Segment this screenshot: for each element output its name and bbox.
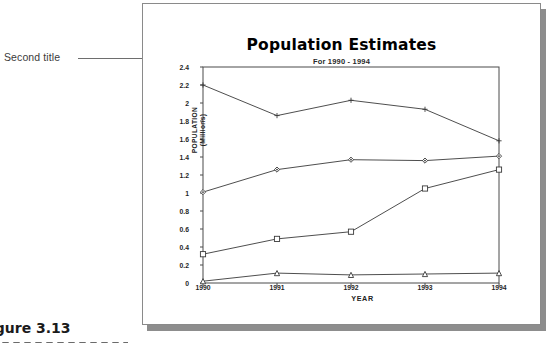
figure-caption: igure 3.13 <box>0 320 71 336</box>
x-tick-label: 1992 <box>334 284 368 291</box>
y-tick-label: 1.8 <box>167 118 189 125</box>
y-tick-label: 1.2 <box>167 172 189 179</box>
y-axis-tick-labels: 00.20.40.60.811.21.41.61.822.22.4 <box>165 4 189 326</box>
y-tick-label: 0.2 <box>167 262 189 269</box>
y-tick-label: 2.4 <box>167 64 189 71</box>
y-tick-label: 0.4 <box>167 244 189 251</box>
x-axis-title: YEAR <box>193 294 532 303</box>
x-tick-label: 1993 <box>408 284 442 291</box>
y-tick-label: 1.6 <box>167 136 189 143</box>
y-tick-label: 1.4 <box>167 154 189 161</box>
y-axis-title-main: POPULATION <box>191 107 198 153</box>
y-tick-label: 2 <box>167 100 189 107</box>
x-tick-label: 1994 <box>482 284 516 291</box>
second-title-annotation-label: Second title <box>4 51 60 63</box>
y-axis-title-units: (Millions) <box>199 114 206 146</box>
y-tick-label: 2.2 <box>167 82 189 89</box>
y-tick-label: 0.6 <box>167 226 189 233</box>
x-tick-label: 1991 <box>260 284 294 291</box>
chart-plot-area[interactable]: 00.20.40.60.811.21.41.61.822.22.4 199019… <box>143 4 542 326</box>
y-tick-label: 0.8 <box>167 208 189 215</box>
y-axis-title: POPULATION (Millions) <box>191 85 207 175</box>
y-tick-label: 1 <box>167 190 189 197</box>
slide-page-panel[interactable]: Population Estimates For 1990 - 1994 00.… <box>142 3 541 325</box>
caption-dotted-rule <box>0 341 128 344</box>
x-tick-label: 1990 <box>186 284 220 291</box>
